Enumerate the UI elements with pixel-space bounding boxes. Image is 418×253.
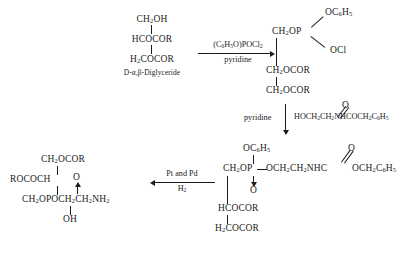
chlorophosphate-bond-1-2	[276, 38, 277, 66]
step2-reagent-left: pyridine	[244, 113, 271, 122]
protected-stem: CH2OP	[223, 163, 252, 173]
protected-bridge: OCH2CH2NHC	[266, 163, 327, 173]
step2-arrow-head	[283, 130, 289, 135]
protected-tail: OCH2C6H5	[352, 163, 396, 173]
protected-bond-1-2	[227, 176, 228, 204]
cephalin-phospho-oxygen: O	[73, 172, 80, 182]
protected-oc6h5: OC6H5	[243, 143, 270, 153]
cephalin-p-o-head	[75, 182, 81, 187]
diglyceride-line-2: HCOCOR	[108, 34, 196, 44]
step3-arrow-shaft	[155, 182, 215, 183]
protected-phospho-oxygen: O	[250, 185, 257, 195]
step3-reagent-below: H2	[150, 184, 214, 193]
reaction-scheme: CH2OH HCOCOR H2COCOR D-α,β-Diglyceride (…	[0, 0, 418, 253]
step1-reagent-below: pyridine	[196, 55, 280, 64]
diglyceride-caption: D-α,β-Diglyceride	[103, 68, 201, 77]
step1-reagent-above: (C6H5O)POCl2	[196, 40, 280, 49]
cephalin-line-3: CH2OPOCH2CH2NH2	[22, 194, 110, 204]
diglyceride-h2cocor: H2COCOR	[130, 54, 174, 64]
diglyceride-line-1: CH2OH	[110, 14, 194, 24]
phenyl-dichlorophosphate-formula: (C6H5O)POCl2	[213, 40, 262, 49]
protected-bond-p-oc6h5	[253, 155, 254, 164]
cephalin-line-1: CH2OCOR	[41, 154, 85, 164]
chlorophosphate-line-2: CH2OCOR	[266, 65, 310, 75]
diglyceride-ch2oh: CH2OH	[137, 14, 168, 24]
chlorophosphate-ocl: OCl	[330, 45, 346, 55]
step2-arrow-shaft	[285, 104, 286, 132]
step2-reagent-right: HOCH2CH2NHCOCH2C6H5	[294, 112, 388, 121]
chlorophosphate-stem: CH2OP	[272, 26, 301, 36]
chlorophosphate-line-3: CH2OCOR	[266, 85, 310, 95]
chlorophosphate-oc6h5: OC6H5	[325, 7, 352, 17]
cephalin-line-2: ROCOCH	[10, 174, 51, 184]
diglyceride-bond-1-2	[151, 25, 152, 34]
cephalin-bond-1-2	[57, 166, 58, 175]
step1-arrow-shaft	[198, 53, 272, 54]
chlorophosphate-bond-to-oc6h5	[311, 16, 324, 27]
cephalin-hydroxyl: OH	[63, 214, 77, 224]
diglyceride-bond-2-3	[151, 45, 152, 54]
diglyceride-line-3: H2COCOR	[105, 54, 199, 64]
protected-line-3: H2COCOR	[215, 223, 259, 233]
step3-reagent-above: Pt and Pd	[150, 169, 214, 178]
chlorophosphate-bond-to-ocl	[310, 36, 325, 48]
protected-line-2: HCOCOR	[218, 203, 259, 213]
diglyceride-hcocor: HCOCOR	[132, 34, 173, 44]
